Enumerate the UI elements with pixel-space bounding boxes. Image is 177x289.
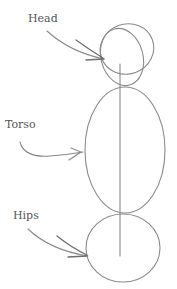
torso-arrow — [20, 142, 83, 160]
head-arrow — [47, 31, 104, 60]
hips-shape — [86, 214, 160, 282]
hips-label: Hips — [13, 210, 39, 221]
hips-arrow — [28, 229, 88, 257]
figure-sketch — [0, 0, 177, 289]
head-label: Head — [28, 13, 58, 24]
torso-shape — [85, 87, 165, 213]
head-shape — [93, 16, 161, 90]
torso-label: Torso — [5, 119, 36, 130]
